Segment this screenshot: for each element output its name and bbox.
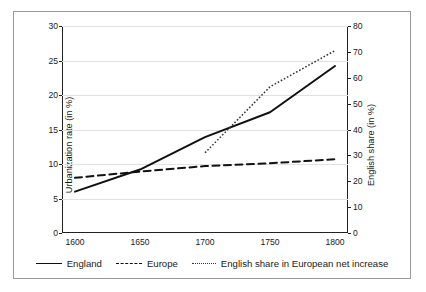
y-axis-right-title: English share (in %) bbox=[366, 104, 376, 186]
legend-swatch-dashed-icon bbox=[116, 263, 142, 264]
legend-item-europe: Europe bbox=[116, 258, 178, 269]
y-axis-right-tick-label: 50 bbox=[353, 99, 363, 108]
y-axis-right-tick-label: 10 bbox=[353, 203, 363, 212]
x-axis-tick-label: 1700 bbox=[195, 238, 214, 247]
y-axis-right-tick-label: 20 bbox=[353, 177, 363, 186]
x-axis-tick-label: 1650 bbox=[130, 238, 149, 247]
chart-figure: Urbanization rate (in %) English share (… bbox=[13, 11, 411, 279]
y-axis-right-tick-mark bbox=[348, 181, 351, 182]
y-axis-right-tick-mark bbox=[348, 130, 351, 131]
series-line-english-share-in-european-net-increase bbox=[205, 51, 335, 153]
y-axis-right-tick-label: 30 bbox=[353, 151, 363, 160]
y-axis-left-tick-label: 10 bbox=[48, 160, 58, 169]
x-axis-tick-label: 1750 bbox=[260, 238, 279, 247]
y-axis-right-tick-mark bbox=[348, 52, 351, 53]
y-axis-left-tick-label: 20 bbox=[48, 91, 58, 100]
x-axis-tick-label: 1800 bbox=[325, 238, 344, 247]
chart-legend: England Europe English share in European… bbox=[14, 258, 410, 269]
x-axis-tick-label: 1600 bbox=[65, 238, 84, 247]
legend-item-england: England bbox=[36, 258, 102, 269]
legend-label-english-share: English share in European net increase bbox=[221, 258, 388, 269]
y-axis-right-tick-label: 0 bbox=[353, 229, 358, 238]
legend-label-england: England bbox=[67, 258, 102, 269]
y-axis-left-tick-label: 15 bbox=[48, 125, 58, 134]
y-axis-right-tick-mark bbox=[348, 155, 351, 156]
y-axis-right-tick-mark bbox=[348, 26, 351, 27]
y-axis-left-tick-label: 25 bbox=[48, 56, 58, 65]
y-axis-left-tick-mark bbox=[59, 233, 62, 234]
y-axis-right-tick-label: 70 bbox=[353, 48, 363, 57]
legend-label-europe: Europe bbox=[147, 258, 178, 269]
series-line-europe bbox=[75, 159, 335, 178]
y-axis-right-tick-mark bbox=[348, 233, 351, 234]
legend-swatch-dotted-icon bbox=[192, 263, 216, 264]
y-axis-right-tick-mark bbox=[348, 104, 351, 105]
legend-item-english-share: English share in European net increase bbox=[192, 258, 388, 269]
y-axis-right-tick-label: 40 bbox=[353, 125, 363, 134]
plot-area: 051015202530 01020304050607080 160016501… bbox=[62, 26, 348, 233]
y-axis-left-tick-label: 0 bbox=[53, 229, 58, 238]
data-series-layer bbox=[62, 26, 348, 233]
series-line-england bbox=[75, 66, 335, 192]
y-axis-right-tick-label: 80 bbox=[353, 22, 363, 31]
y-axis-right-tick-mark bbox=[348, 78, 351, 79]
y-axis-right-tick-label: 60 bbox=[353, 73, 363, 82]
y-axis-right-tick-mark bbox=[348, 207, 351, 208]
legend-swatch-solid-icon bbox=[36, 263, 62, 264]
y-axis-left-tick-label: 30 bbox=[48, 22, 58, 31]
y-axis-left-tick-label: 5 bbox=[53, 194, 58, 203]
